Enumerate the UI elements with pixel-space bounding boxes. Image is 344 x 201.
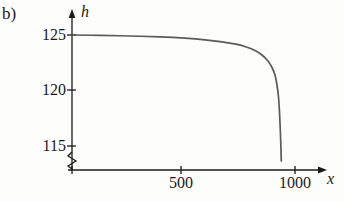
x-axis-label: x — [327, 170, 334, 188]
y-axis-label: h — [81, 3, 89, 21]
y-axis-arrow-icon — [69, 9, 76, 18]
x-tick-label-500: 500 — [151, 174, 211, 192]
data-curve — [72, 35, 281, 161]
figure-panel: b) h x 125 120 115 500 1000 — [0, 0, 344, 201]
y-tick-label-120: 120 — [28, 81, 66, 99]
x-axis-arrow-icon — [318, 167, 327, 174]
y-tick-label-115: 115 — [28, 137, 66, 155]
panel-label: b) — [2, 4, 16, 24]
y-tick-label-125: 125 — [28, 26, 66, 44]
x-tick-label-1000: 1000 — [265, 174, 325, 192]
